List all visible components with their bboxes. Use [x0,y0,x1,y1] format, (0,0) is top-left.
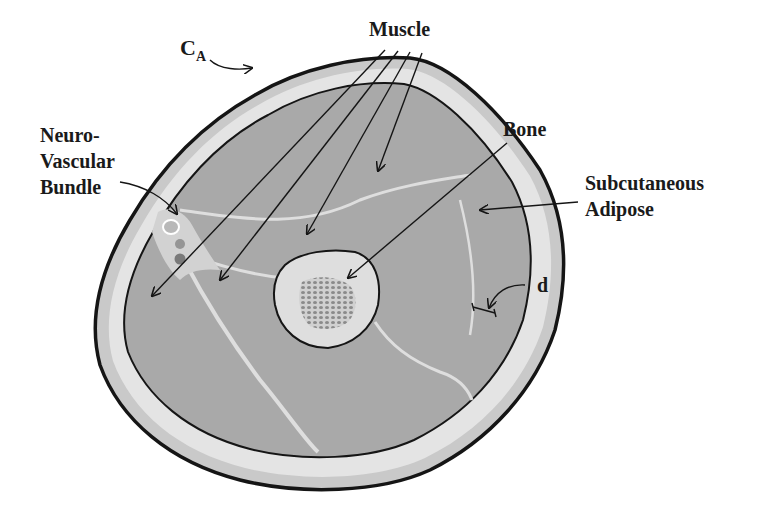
diagram-canvas: CA Muscle Neuro- Vascular Bundle Bone Su… [0,0,769,507]
circumference-pointer-line [210,60,252,69]
label-circumference: CA [180,35,207,64]
label-subcutaneous-adipose: Subcutaneous Adipose [585,172,709,221]
nerve-circle [163,220,179,234]
label-bone: Bone [503,118,546,140]
label-thickness: d [537,274,548,296]
label-muscle: Muscle [369,18,430,40]
limb-cross-section-diagram: CA Muscle Neuro- Vascular Bundle Bone Su… [0,0,769,507]
vessel-artery [175,239,185,249]
label-neurovascular: Neuro- Vascular Bundle [40,124,119,198]
bone-marrow [299,277,355,329]
